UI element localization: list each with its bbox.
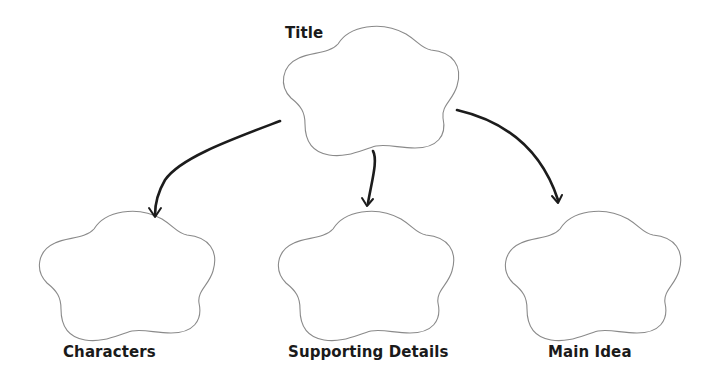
arrow-to-characters [149,121,280,217]
cloud-characters [39,211,214,340]
label-supporting-details: Supporting Details [288,343,449,361]
diagram-canvas [0,0,713,379]
cloud-main-idea [505,211,680,340]
label-title: Title [285,24,323,42]
label-main-idea: Main Idea [548,343,632,361]
arrow-to-main-idea [457,110,562,203]
label-characters: Characters [63,343,156,361]
cloud-supporting-details [278,211,453,340]
arrow-to-supporting-details [362,151,375,206]
cloud-title [283,26,458,155]
